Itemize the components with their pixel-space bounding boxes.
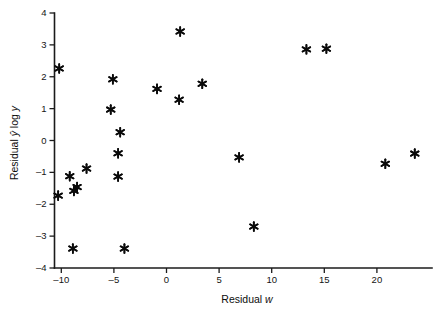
asterisk-marker-core	[413, 152, 416, 155]
y-tick-label: –3	[36, 230, 47, 241]
asterisk-marker-core	[71, 247, 74, 250]
data-point	[114, 149, 122, 158]
asterisk-marker-core	[123, 247, 126, 250]
asterisk-marker-core	[238, 156, 241, 159]
x-tick-label: –5	[109, 274, 120, 285]
asterisk-marker-core	[252, 225, 255, 228]
x-axis-ticks: –10–505101520	[53, 268, 382, 285]
x-axis-title: Residual w	[221, 293, 274, 305]
data-point	[107, 105, 115, 114]
data-point	[54, 191, 62, 200]
asterisk-marker-core	[384, 162, 387, 165]
asterisk-marker-core	[325, 47, 328, 50]
data-point	[55, 64, 63, 73]
data-point	[382, 159, 390, 168]
y-tick-label: –4	[36, 262, 47, 273]
asterisk-marker-core	[117, 175, 120, 178]
y-tick-label: 3	[41, 39, 46, 50]
x-tick-label: –10	[53, 274, 69, 285]
data-point	[66, 172, 74, 181]
data-point	[69, 244, 77, 253]
asterisk-marker-core	[109, 108, 112, 111]
data-point	[83, 164, 91, 173]
data-point	[116, 128, 124, 137]
data-point	[303, 45, 311, 54]
asterisk-marker-core	[117, 152, 120, 155]
asterisk-marker-core	[155, 87, 158, 90]
data-point	[235, 153, 243, 162]
x-tick-label: 10	[266, 274, 277, 285]
y-tick-label: 1	[41, 103, 46, 114]
asterisk-marker-core	[58, 67, 61, 70]
asterisk-marker-core	[111, 78, 114, 81]
data-point	[198, 79, 206, 88]
y-axis: –4–3–2–101234	[36, 7, 55, 273]
x-tick-label: 20	[372, 274, 383, 285]
data-point	[411, 149, 419, 158]
data-point	[121, 244, 129, 253]
y-tick-label: 2	[41, 71, 46, 82]
y-tick-label: 0	[41, 135, 46, 146]
asterisk-marker-core	[76, 185, 79, 188]
data-point	[176, 27, 184, 36]
asterisk-marker-core	[57, 194, 60, 197]
x-tick-label: 15	[319, 274, 330, 285]
data-point	[114, 172, 122, 181]
asterisk-marker-core	[201, 82, 204, 85]
asterisk-marker-core	[179, 30, 182, 33]
x-tick-label: 0	[164, 274, 169, 285]
scatter-plot-figure: –4–3–2–101234 –10–505101520 Residual w R…	[0, 0, 442, 315]
asterisk-marker-core	[305, 48, 308, 51]
plot-canvas: –4–3–2–101234 –10–505101520 Residual w R…	[0, 0, 442, 315]
data-point	[250, 222, 258, 231]
asterisk-marker-core	[178, 98, 181, 101]
data-point	[109, 75, 117, 84]
asterisk-marker-core	[85, 167, 88, 170]
data-point	[153, 84, 161, 93]
y-tick-label: 4	[41, 7, 46, 18]
x-axis: –10–505101520	[53, 268, 432, 285]
data-point-group	[54, 27, 418, 253]
x-tick-label: 5	[216, 274, 221, 285]
asterisk-marker-core	[68, 175, 71, 178]
y-tick-label: –2	[36, 198, 47, 209]
data-point	[323, 44, 331, 53]
data-point	[175, 95, 183, 104]
y-tick-label: –1	[36, 166, 47, 177]
asterisk-marker-core	[119, 131, 122, 134]
y-axis-title: Residual ŷ log y	[8, 105, 20, 180]
y-axis-ticks: –4–3–2–101234	[36, 7, 55, 273]
